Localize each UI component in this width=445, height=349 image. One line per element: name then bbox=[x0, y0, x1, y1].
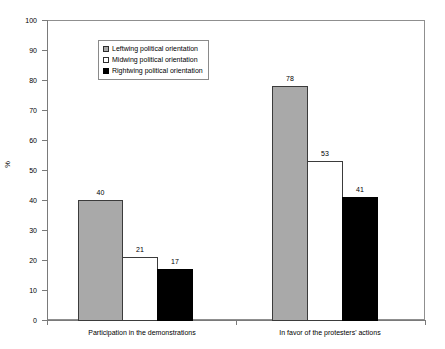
y-tick-label-80: 80 bbox=[7, 77, 37, 84]
y-tick-label-40: 40 bbox=[7, 197, 37, 204]
bar-group2-midwing bbox=[307, 161, 343, 321]
legend-item-midwing: Midwing political orientation bbox=[103, 55, 203, 65]
y-tick-100 bbox=[42, 20, 47, 21]
bar-group2-leftwing bbox=[272, 86, 308, 321]
legend: Leftwing political orientation Midwing p… bbox=[98, 40, 209, 80]
x-tick-end bbox=[425, 320, 426, 325]
y-axis-line bbox=[47, 20, 48, 321]
legend-swatch-icon-rightwing bbox=[103, 68, 109, 74]
y-tick-70 bbox=[42, 110, 47, 111]
y-tick-20 bbox=[42, 260, 47, 261]
bar-value-group2-rightwing: 41 bbox=[342, 186, 378, 193]
y-tick-label-70: 70 bbox=[7, 107, 37, 114]
bar-group2-rightwing bbox=[342, 197, 378, 321]
legend-label-rightwing: Rightwing political orientation bbox=[112, 67, 203, 75]
bar-value-group2-midwing: 53 bbox=[307, 150, 343, 157]
y-tick-label-30: 30 bbox=[7, 227, 37, 234]
legend-item-leftwing: Leftwing political orientation bbox=[103, 44, 203, 54]
y-tick-80 bbox=[42, 80, 47, 81]
bar-group1-rightwing bbox=[157, 269, 193, 321]
legend-item-rightwing: Rightwing political orientation bbox=[103, 66, 203, 76]
y-tick-90 bbox=[42, 50, 47, 51]
y-tick-label-60: 60 bbox=[7, 137, 37, 144]
legend-label-midwing: Midwing political orientation bbox=[112, 56, 198, 64]
y-tick-60 bbox=[42, 140, 47, 141]
bar-value-group2-leftwing: 78 bbox=[272, 75, 308, 82]
x-tick-mid bbox=[236, 320, 237, 325]
y-tick-label-20: 20 bbox=[7, 257, 37, 264]
bar-chart: % 100 90 80 70 60 50 40 30 20 10 0 40 21… bbox=[0, 0, 445, 349]
bar-value-group1-leftwing: 40 bbox=[78, 189, 123, 196]
y-tick-10 bbox=[42, 290, 47, 291]
bar-group1-leftwing bbox=[78, 200, 123, 321]
x-category-label-1: Participation in the demonstrations bbox=[52, 329, 232, 337]
bar-value-group1-rightwing: 17 bbox=[157, 258, 193, 265]
y-tick-label-50: 50 bbox=[7, 167, 37, 174]
y-tick-label-100: 100 bbox=[7, 17, 37, 24]
y-tick-40 bbox=[42, 200, 47, 201]
y-tick-label-90: 90 bbox=[7, 47, 37, 54]
bar-value-group1-midwing: 21 bbox=[122, 246, 158, 253]
y-tick-label-0: 0 bbox=[7, 317, 37, 324]
y-tick-label-10: 10 bbox=[7, 287, 37, 294]
y-tick-50 bbox=[42, 170, 47, 171]
x-category-label-2: In favor of the protesters' actions bbox=[240, 329, 420, 337]
y-tick-30 bbox=[42, 230, 47, 231]
legend-swatch-icon-midwing bbox=[103, 57, 109, 63]
legend-swatch-icon-leftwing bbox=[103, 46, 109, 52]
x-tick-start bbox=[47, 320, 48, 325]
legend-label-leftwing: Leftwing political orientation bbox=[112, 45, 198, 53]
bar-group1-midwing bbox=[122, 257, 158, 321]
